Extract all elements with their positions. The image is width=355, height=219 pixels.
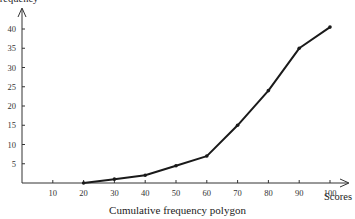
data-point-marker [236, 123, 240, 127]
x-tick-label: 10 [49, 188, 58, 198]
data-point-marker [328, 25, 332, 29]
data-point-marker [297, 46, 301, 50]
data-point-marker [267, 89, 271, 93]
cumulative-frequency-line [84, 27, 330, 183]
data-point-marker [143, 174, 147, 178]
x-tick-label: 50 [172, 188, 181, 198]
data-point-marker [174, 164, 178, 168]
x-axis-label: Scores [324, 191, 352, 202]
axes [18, 8, 349, 187]
x-tick-label: 80 [264, 188, 273, 198]
x-tick-label: 40 [141, 188, 150, 198]
y-tick-label: 35 [8, 43, 17, 53]
data-point-marker [82, 181, 86, 185]
x-tick-label: 60 [203, 188, 212, 198]
x-tick-label: 70 [233, 188, 242, 198]
x-tick-label: 20 [79, 188, 88, 198]
y-axis-label: Frequency [0, 0, 38, 4]
x-tick-label: 90 [295, 188, 304, 198]
chart-caption: Cumulative frequency polygon [0, 204, 355, 216]
ticks: 102030405060708090100510152025303540 [8, 24, 337, 198]
x-tick-label: 30 [110, 188, 119, 198]
y-tick-label: 25 [8, 82, 17, 92]
plot-area [82, 25, 332, 185]
data-point-marker [205, 154, 209, 158]
cumulative-frequency-chart: 102030405060708090100510152025303540 Sco… [0, 0, 355, 219]
y-tick-label: 15 [8, 120, 17, 130]
y-tick-label: 30 [8, 63, 17, 73]
y-tick-label: 40 [8, 24, 17, 34]
y-tick-label: 10 [8, 140, 17, 150]
y-tick-label: 5 [12, 159, 16, 169]
data-point-marker [113, 177, 117, 181]
y-tick-label: 20 [8, 101, 17, 111]
